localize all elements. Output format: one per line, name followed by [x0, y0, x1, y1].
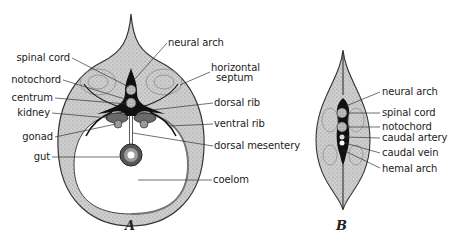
label-neural-arch-b: neural arch — [382, 87, 438, 97]
label-septum: septum — [216, 73, 253, 83]
label-gonad: gonad — [22, 132, 53, 142]
figure-caption-a: A — [125, 218, 135, 233]
label-gut: gut — [34, 152, 50, 162]
label-spinal-cord-b: spinal cord — [382, 108, 436, 118]
label-kidney: kidney — [17, 108, 50, 118]
label-centrum: centrum — [12, 93, 53, 103]
label-notochord: notochord — [11, 75, 61, 85]
label-neural-arch-a: neural arch — [168, 38, 224, 48]
label-dorsal-mesentery: dorsal mesentery — [214, 141, 300, 151]
label-caudal-vein: caudal vein — [382, 148, 438, 158]
label-dorsal-rib: dorsal rib — [214, 98, 260, 108]
label-caudal-artery: caudal artery — [382, 133, 447, 143]
label-notochord-b: notochord — [382, 122, 432, 132]
tail-cross-section — [316, 50, 370, 210]
label-coelom: coelom — [213, 175, 249, 185]
figure-caption-b: B — [336, 218, 347, 233]
label-spinal-cord: spinal cord — [16, 53, 70, 63]
label-hemal-arch: hemal arch — [382, 164, 437, 174]
label-ventral-rib: ventral rib — [214, 119, 265, 129]
